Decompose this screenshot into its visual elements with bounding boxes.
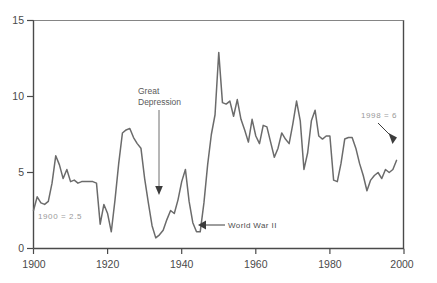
x-tick-label-1920: 1920	[96, 258, 120, 270]
chart-container: 15 10 5 0 1900 1920 1940 1960 1980 2000 …	[0, 0, 437, 283]
y-tick-label-15: 15	[12, 14, 24, 26]
annotation-world-war-two: World War II	[198, 221, 277, 230]
x-tick-label-1960: 1960	[244, 258, 268, 270]
x-axis-ticks	[34, 249, 405, 255]
x-tick-label-1940: 1940	[170, 258, 194, 270]
annotation-end-value: 1998 = 6	[361, 111, 397, 144]
y-tick-label-5: 5	[18, 166, 24, 178]
start-value-label: 1900 = 2.5	[38, 212, 82, 221]
x-tick-label-1900: 1900	[22, 258, 46, 270]
x-tick-label-2000: 2000	[390, 258, 414, 270]
line-chart-svg: 15 10 5 0 1900 1920 1940 1960 1980 2000 …	[0, 0, 437, 283]
end-value-label: 1998 = 6	[361, 111, 397, 120]
y-axis-ticks	[27, 21, 34, 249]
world-war-two-label: World War II	[228, 221, 277, 230]
great-depression-label-line1: Great	[138, 86, 160, 96]
y-tick-label-0: 0	[18, 242, 24, 254]
y-tick-label-10: 10	[12, 90, 24, 102]
great-depression-label-line2: Depression	[138, 97, 181, 107]
data-series-line	[34, 52, 397, 237]
x-tick-label-1980: 1980	[318, 258, 342, 270]
